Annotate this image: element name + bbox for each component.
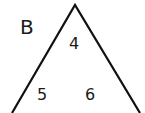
number-bottom-right: 6 (85, 87, 95, 103)
diagram-label-b: B (20, 17, 34, 37)
number-top: 4 (69, 36, 79, 52)
number-bottom-left: 5 (37, 87, 47, 103)
